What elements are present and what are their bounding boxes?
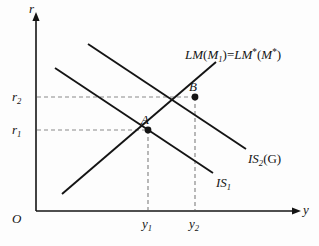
is1-label-base: IS	[216, 175, 227, 190]
tick-label-y1: y1	[142, 217, 152, 232]
point-b-marker	[192, 94, 199, 101]
tick-y1-sub: 1	[148, 223, 152, 233]
is-lm-figure: r y O r1 r2 y1 y2 LM(M1)=LM*(M*) IS2(G) …	[0, 0, 319, 246]
is2-curve-label: IS2(G)	[248, 152, 281, 167]
is2-label-arg: (G)	[263, 151, 281, 166]
lm-label-base2: LM	[234, 47, 252, 62]
horizontal-axis-arrow	[292, 207, 301, 214]
is1-label-sub: 1	[227, 182, 231, 192]
tick-label-r1: r1	[12, 123, 21, 138]
diagram-canvas	[0, 0, 319, 246]
axis-label-r: r	[29, 2, 34, 15]
tick-y2-sub: 2	[195, 223, 199, 233]
point-b-label: B	[189, 80, 197, 93]
tick-r1-sub: 1	[17, 129, 21, 139]
tick-r2-sub: 2	[17, 96, 21, 106]
point-a-label: A	[141, 113, 149, 126]
is2-label-base: IS	[248, 151, 259, 166]
tick-label-r2: r2	[12, 90, 21, 105]
lm-curve-label: LM(M1)=LM*(M*)	[185, 48, 281, 63]
axis-label-y: y	[303, 203, 309, 216]
lm-label-m2: M	[261, 47, 272, 62]
is1-curve-label: IS1	[216, 176, 231, 191]
tick-label-y2: y2	[189, 217, 199, 232]
lm-label-m: M	[207, 47, 218, 62]
lm-label-base: LM	[185, 47, 203, 62]
point-a-marker	[145, 127, 152, 134]
lm-label-paren2-close: )	[277, 47, 281, 62]
origin-label: O	[12, 212, 21, 225]
